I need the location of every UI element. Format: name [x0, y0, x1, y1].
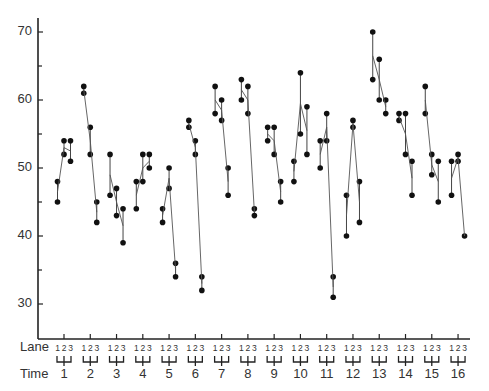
lane-number: 1 — [370, 343, 375, 353]
lane-number: 2 — [219, 343, 224, 353]
lane-number: 1 — [55, 343, 60, 353]
time-group-10 — [291, 70, 310, 184]
lane-number: 3 — [462, 343, 467, 353]
data-point — [120, 240, 126, 246]
time-label: 15 — [425, 366, 439, 381]
lane-number: 2 — [377, 343, 382, 353]
time-label: 13 — [372, 366, 386, 381]
data-point — [278, 199, 284, 205]
data-point — [370, 77, 376, 83]
time-label: 3 — [113, 366, 120, 381]
data-point — [87, 152, 93, 158]
lane-bracket-icon — [162, 356, 176, 366]
lane-number: 2 — [140, 343, 145, 353]
mean-connector-line — [346, 124, 359, 216]
time-label: 2 — [87, 366, 94, 381]
lane-number: 1 — [449, 343, 454, 353]
data-point — [94, 220, 100, 226]
data-point — [403, 152, 409, 158]
y-tick-label: 50 — [18, 159, 32, 174]
lane-number: 1 — [81, 343, 86, 353]
data-point — [140, 152, 146, 158]
data-point — [317, 165, 323, 171]
data-point — [160, 220, 166, 226]
data-point — [291, 179, 297, 185]
data-point — [134, 179, 140, 185]
data-point — [140, 179, 146, 185]
data-point — [383, 111, 389, 117]
time-label: 8 — [244, 366, 251, 381]
lane-number: 1 — [108, 343, 113, 353]
lane-number: 2 — [114, 343, 119, 353]
lane-number: 3 — [147, 343, 152, 353]
lane-bracket-icon — [110, 356, 124, 366]
data-point — [317, 138, 323, 144]
data-point — [225, 192, 231, 198]
time-group-14 — [396, 111, 415, 198]
y-axis: 3040506070 — [18, 18, 43, 339]
lane-number: 1 — [292, 343, 297, 353]
data-point — [94, 199, 100, 205]
time-group-2 — [81, 84, 100, 226]
time-label: 10 — [293, 366, 307, 381]
lane-number: 1 — [134, 343, 139, 353]
data-point — [344, 233, 350, 239]
time-group-7 — [212, 84, 231, 198]
time-row-label: Time — [20, 366, 48, 381]
time-label: 1 — [60, 366, 67, 381]
data-point — [324, 111, 330, 117]
time-label: 6 — [192, 366, 199, 381]
y-tick-label: 70 — [18, 23, 32, 38]
data-point — [422, 84, 428, 90]
lane-number: 3 — [68, 343, 73, 353]
lane-bracket-icon — [188, 356, 202, 366]
lane-bracket-icon — [425, 356, 439, 366]
lane-number: 3 — [331, 343, 336, 353]
lane-bracket-icon — [399, 356, 413, 366]
data-point — [376, 56, 382, 62]
data-point — [245, 84, 251, 90]
lane-number: 2 — [88, 343, 93, 353]
lane-number: 2 — [456, 343, 461, 353]
lane-number: 3 — [383, 343, 388, 353]
lane-number: 2 — [246, 343, 251, 353]
data-point — [68, 138, 74, 144]
lane-bracket-icon — [372, 356, 386, 366]
lane-number: 1 — [160, 343, 165, 353]
time-group-1 — [55, 138, 74, 205]
data-point — [114, 186, 120, 192]
lane-number: 3 — [94, 343, 99, 353]
time-group-15 — [422, 84, 441, 205]
data-point — [147, 165, 153, 171]
lane-number: 1 — [186, 343, 191, 353]
lane-number: 1 — [213, 343, 218, 353]
data-point — [212, 111, 218, 117]
lane-bracket-icon — [346, 356, 360, 366]
lane-number: 3 — [173, 343, 178, 353]
data-point — [435, 199, 441, 205]
x-category-labels: 1231123212331234123512361237123812391231… — [55, 343, 467, 381]
lane-number: 1 — [344, 343, 349, 353]
data-point — [409, 192, 415, 198]
data-point — [225, 165, 231, 171]
data-point — [265, 124, 271, 130]
time-group-9 — [265, 124, 284, 204]
data-point — [455, 152, 461, 158]
data-point — [68, 158, 74, 164]
lane-number: 3 — [436, 343, 441, 353]
mean-connector-line — [189, 124, 202, 284]
data-point — [324, 138, 330, 144]
data-point — [271, 124, 277, 130]
lane-number: 2 — [167, 343, 172, 353]
lane-number: 2 — [298, 343, 303, 353]
lane-number: 1 — [239, 343, 244, 353]
y-tick-label: 60 — [18, 91, 32, 106]
lane-number: 1 — [397, 343, 402, 353]
lane-number: 3 — [199, 343, 204, 353]
lane-number: 3 — [305, 343, 310, 353]
time-label: 16 — [451, 366, 465, 381]
lane-number: 2 — [351, 343, 356, 353]
data-point — [291, 158, 297, 164]
mean-connector-line — [320, 127, 333, 287]
time-group-4 — [134, 152, 153, 212]
